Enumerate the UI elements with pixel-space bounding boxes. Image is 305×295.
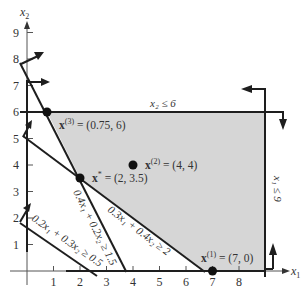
lp-feasible-region-diagram: 1 2 3 4 5 6 7 8 1 2 3 4 5 6 7 8 9 x1 x2	[0, 0, 305, 295]
direction-arrow-02	[20, 210, 27, 222]
x-tick-label: 2	[77, 275, 83, 289]
point-x3	[43, 108, 52, 117]
y-tick-label: 1	[13, 238, 19, 252]
y-tick-label: 5	[13, 132, 19, 146]
arrow-head-icon	[269, 243, 277, 255]
arrow-head-icon	[279, 119, 287, 130]
y-tick-label: 4	[13, 158, 19, 172]
y-tick-label: 7	[13, 79, 19, 93]
arrow-head-icon	[34, 52, 44, 60]
x-tick-label: 3	[104, 275, 110, 289]
x-tick-label: 6	[183, 275, 189, 289]
direction-arrow-04	[21, 56, 38, 64]
y-tick-label: 2	[13, 211, 19, 225]
y-tick-label: 9	[13, 26, 19, 40]
y-tick-label: 6	[13, 105, 19, 119]
x-tick-label: 8	[236, 275, 242, 289]
y-tick-label: 3	[13, 185, 19, 199]
arrow-head-icon	[41, 78, 50, 86]
point-xstar	[76, 174, 85, 183]
x-tick-label: 5	[157, 275, 163, 289]
x-tick-label: 7	[210, 275, 216, 289]
x2-axis-arrow-icon	[24, 21, 30, 29]
x1-axis-arrow-icon	[282, 268, 290, 274]
y-tick-label: 8	[13, 52, 19, 66]
label-x1-le-9: x₁ ≤ 9	[272, 175, 284, 202]
x1-axis-label: x1	[290, 264, 300, 280]
arrow-head-icon	[241, 85, 252, 93]
point-x1	[208, 267, 217, 276]
x-tick-label: 4	[130, 275, 136, 289]
label-x2-le-6: x₂ ≤ 6	[149, 97, 176, 109]
x2-axis-label: x2	[19, 5, 29, 21]
point-x2	[129, 161, 138, 170]
x-tick-label: 1	[51, 275, 57, 289]
